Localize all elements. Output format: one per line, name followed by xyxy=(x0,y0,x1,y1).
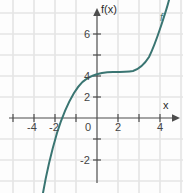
y-tick-label-6: 6 xyxy=(84,29,90,40)
y-tick-label-0: 0 xyxy=(85,122,91,133)
x-tick-label-4: 4 xyxy=(157,122,163,133)
y-tick-label-2: 2 xyxy=(84,92,90,103)
curve-label-f: f xyxy=(160,13,163,23)
y-tick-label-4: 4 xyxy=(84,71,90,82)
x-tick-label-2: 2 xyxy=(115,122,121,133)
x-tick-label-minus-4: -4 xyxy=(27,122,37,133)
plot-canvas xyxy=(0,0,183,193)
x-axis-title: x xyxy=(163,100,169,111)
x-tick-label-minus-2: -2 xyxy=(49,122,59,133)
y-tick-label-minus-2: -2 xyxy=(80,155,90,166)
function-graph-figure: f(x) x f 6 4 2 0 -2 -4 -2 2 4 xyxy=(0,0,183,193)
y-axis-title: f(x) xyxy=(101,4,117,15)
